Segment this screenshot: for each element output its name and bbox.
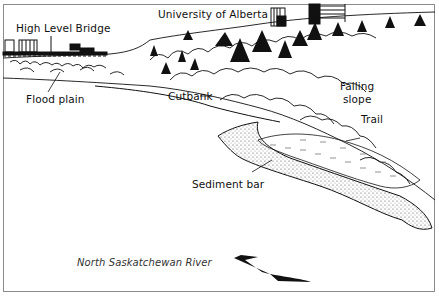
- label-high-level-bridge: High Level Bridge: [16, 22, 110, 34]
- forested-slope-drawing: [3, 12, 435, 200]
- label-cutbank: Cutbank: [168, 90, 213, 102]
- label-failing-slope-line2: slope: [343, 93, 371, 105]
- leader-lines: [48, 72, 360, 172]
- river-valley-illustration: [0, 0, 439, 300]
- sediment-bar-shape: [218, 122, 432, 229]
- university-buildings-drawing: [271, 4, 345, 26]
- label-university-of-alberta: University of Alberta: [158, 8, 268, 20]
- label-north-saskatchewan-river: North Saskatchewan River: [77, 257, 212, 268]
- label-trail: Trail: [361, 113, 383, 125]
- label-flood-plain: Flood plain: [26, 93, 85, 105]
- north-arrow-icon: [234, 255, 311, 282]
- label-failing-slope-line1: Failing: [340, 80, 374, 92]
- conifer-trees-drawing: [150, 14, 426, 74]
- high-level-bridge-drawing: [3, 36, 107, 56]
- label-sediment-bar: Sediment bar: [192, 178, 264, 190]
